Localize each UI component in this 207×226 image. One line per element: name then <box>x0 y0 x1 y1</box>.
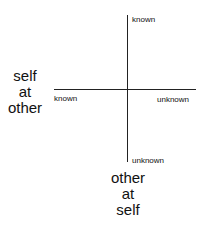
vertical-axis-title: other at self <box>105 170 151 218</box>
horizontal-axis-left-label: known <box>54 94 77 103</box>
horizontal-axis-title-line: self <box>2 68 48 84</box>
vertical-axis-top-label: known <box>132 15 155 24</box>
horizontal-axis-title-line: at <box>2 84 48 100</box>
horizontal-axis-line <box>54 89 196 90</box>
vertical-axis-title-line: self <box>105 202 151 218</box>
horizontal-axis-title-line: other <box>2 100 48 116</box>
vertical-axis-title-line: at <box>105 186 151 202</box>
vertical-axis-title-line: other <box>105 170 151 186</box>
horizontal-axis-title: self at other <box>2 68 48 116</box>
horizontal-axis-right-label: unknown <box>157 95 189 104</box>
vertical-axis-bottom-label: unknown <box>132 156 164 165</box>
